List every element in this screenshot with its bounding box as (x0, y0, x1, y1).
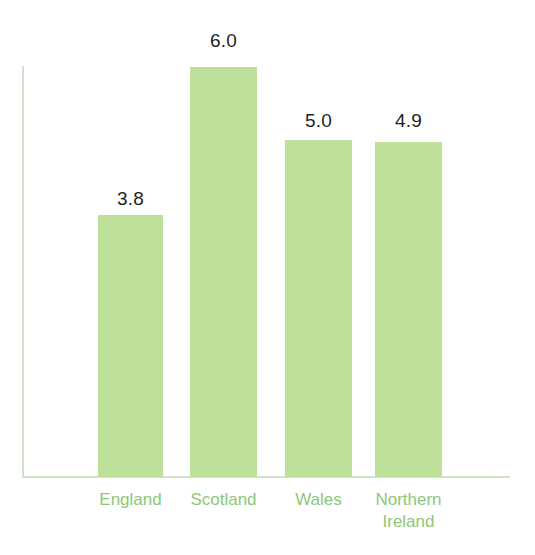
bar-england[interactable] (98, 215, 163, 477)
plot-area: 3.8 6.0 5.0 4.9 (0, 0, 535, 478)
bar-northern-ireland[interactable] (375, 142, 442, 477)
bar-group-northern-ireland: 4.9 (375, 0, 442, 478)
x-axis-label-scotland: Scotland (171, 489, 276, 511)
bar-group-england: 3.8 (98, 0, 163, 478)
bar-value-england: 3.8 (117, 188, 144, 210)
bar-value-northern-ireland: 4.9 (395, 110, 422, 132)
bar-value-wales: 5.0 (305, 110, 332, 132)
bar-value-scotland: 6.0 (210, 30, 237, 52)
bar-chart: 3.8 6.0 5.0 4.9 England Scotland Wales N… (0, 0, 535, 555)
bar-scotland[interactable] (190, 67, 257, 477)
x-axis-label-northern-ireland: Northern Ireland (356, 489, 461, 533)
bar-wales[interactable] (285, 140, 352, 477)
bar-group-wales: 5.0 (285, 0, 352, 478)
x-axis-label-england: England (78, 489, 183, 511)
bar-group-scotland: 6.0 (190, 0, 257, 478)
